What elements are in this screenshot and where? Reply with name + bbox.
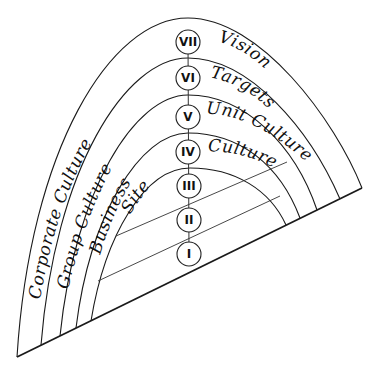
svg-text:III: III xyxy=(182,179,195,193)
level-badge-iv: IV xyxy=(176,140,200,164)
label-culture: Culture xyxy=(208,135,281,171)
level-badge-ii: II xyxy=(177,208,201,232)
level-badge-vi: VI xyxy=(176,66,200,90)
culture-arch-diagram: VII VI V IV III II I Corporate Culture G… xyxy=(0,0,376,373)
svg-text:V: V xyxy=(183,110,193,124)
svg-text:II: II xyxy=(185,213,194,227)
level-badge-iii: III xyxy=(177,174,201,198)
level-badge-v: V xyxy=(176,105,200,129)
level-badge-i: I xyxy=(177,242,201,266)
level-badge-vii: VII xyxy=(176,30,200,54)
svg-text:VI: VI xyxy=(181,71,195,85)
svg-text:IV: IV xyxy=(181,145,195,159)
svg-text:VII: VII xyxy=(179,35,197,49)
svg-text:I: I xyxy=(187,247,191,261)
